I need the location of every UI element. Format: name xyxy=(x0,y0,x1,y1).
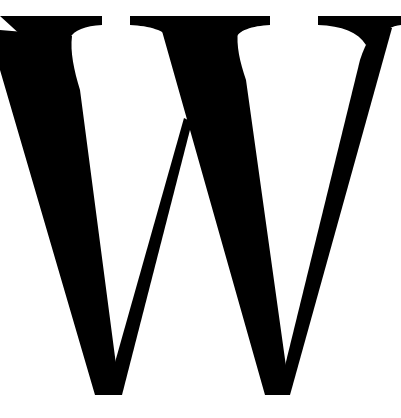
letter-w-image: W xyxy=(0,0,401,418)
letter-w-icon xyxy=(0,0,401,418)
